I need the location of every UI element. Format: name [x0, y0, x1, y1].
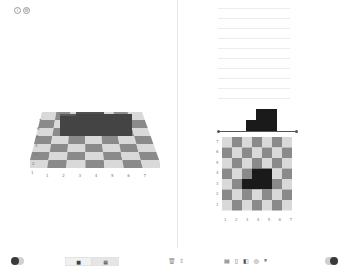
y-tick: 1	[31, 170, 34, 175]
x-tick: 3	[246, 217, 249, 222]
x-tick: 2	[62, 173, 65, 178]
top-icon-group: i ⚙	[14, 7, 30, 14]
settings-icon[interactable]: ⚙	[23, 7, 30, 14]
block-tool-icon[interactable]: ▯	[235, 257, 238, 264]
x-tick: 1	[46, 173, 49, 178]
left-x-axis: 1 2 3 4 5 6 7	[46, 173, 146, 178]
note-line	[218, 48, 290, 49]
x-tick: 1	[224, 217, 227, 222]
board-3d-svg	[30, 112, 160, 172]
x-tick: 6	[279, 217, 282, 222]
note-line	[218, 68, 290, 69]
app-window: i ⚙ 7 6 5 4 3 2 1 1 2 3 4 5 6	[0, 0, 338, 273]
x-tick: 6	[127, 173, 130, 178]
note-line	[218, 58, 290, 59]
y-tick: 6	[216, 149, 219, 154]
note-line	[218, 38, 290, 39]
y-tick: 5	[36, 134, 39, 139]
panel-divider[interactable]	[177, 0, 178, 248]
x-tick: 7	[143, 173, 146, 178]
view-segmented-control: ■ ▦	[65, 257, 119, 266]
stack-block	[246, 120, 257, 131]
note-line	[218, 98, 290, 99]
y-tick: 3	[216, 181, 219, 186]
x-tick: 3	[78, 173, 81, 178]
info-icon[interactable]: i	[14, 7, 21, 14]
note-line	[218, 28, 290, 29]
note-line	[218, 88, 290, 89]
x-tick: 2	[235, 217, 238, 222]
note-line	[218, 18, 290, 19]
y-tick: 3	[34, 152, 37, 157]
pause-icon[interactable]: ⏸	[264, 256, 267, 264]
x-tick: 5	[268, 217, 271, 222]
board-2d[interactable]	[222, 137, 292, 211]
y-tick: 7	[216, 139, 219, 144]
x-tick: 4	[257, 217, 260, 222]
bottom-toolbar: ■ ▦ 🗑 ⇪ ▤ ▯ ◧ ◎ ⏸	[0, 250, 338, 273]
x-tick: 7	[289, 217, 292, 222]
camera-tool-icon[interactable]: ◎	[254, 257, 259, 264]
note-line	[218, 78, 290, 79]
left-toggle[interactable]	[11, 257, 24, 265]
trash-icon[interactable]: 🗑	[168, 257, 176, 264]
x-tick: 5	[111, 173, 114, 178]
stack-block	[256, 109, 277, 131]
share-icon[interactable]: ⇪	[179, 257, 184, 264]
right-toggle[interactable]	[325, 257, 338, 265]
layer-tool-icon[interactable]: ◧	[243, 257, 249, 264]
y-tick: 5	[216, 160, 219, 165]
board-3d[interactable]	[30, 112, 160, 172]
notes-lines	[218, 4, 290, 104]
y-tick: 7	[39, 118, 42, 123]
view-3d-button[interactable]: ▦	[92, 257, 119, 266]
y-tick: 2	[216, 191, 219, 196]
y-tick: 6	[37, 126, 40, 131]
y-tick: 2	[32, 161, 35, 166]
right-x-axis: 1 2 3 4 5 6 7	[224, 217, 292, 222]
view-2d-button[interactable]: ■	[65, 257, 92, 266]
toggle-knob	[11, 257, 19, 265]
y-tick: 4	[35, 143, 38, 148]
x-tick: 4	[95, 173, 98, 178]
tool-group: ▤ ▯ ◧ ◎ ⏸	[224, 256, 267, 264]
grid-tool-icon[interactable]: ▤	[224, 257, 230, 264]
toggle-knob	[330, 257, 338, 265]
note-line	[218, 8, 290, 9]
file-actions: 🗑 ⇪	[168, 257, 184, 264]
y-tick: 4	[216, 170, 219, 175]
y-tick: 1	[216, 202, 219, 207]
ruler-bar[interactable]	[218, 131, 297, 132]
